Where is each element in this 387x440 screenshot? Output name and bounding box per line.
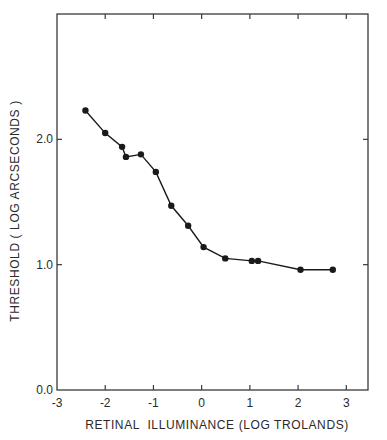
plot-frame bbox=[57, 14, 368, 390]
data-point-marker bbox=[102, 130, 108, 136]
data-point-marker bbox=[123, 154, 129, 160]
chart-container: -3-2-10123 0.01.02.0 RETINAL ILLUMINANCE… bbox=[0, 0, 387, 440]
data-point-marker bbox=[138, 151, 144, 157]
data-point-marker bbox=[185, 223, 191, 229]
y-tick-labels: 0.01.02.0 bbox=[36, 132, 53, 397]
data-point-marker bbox=[119, 144, 125, 150]
x-tick-labels: -3-2-10123 bbox=[52, 396, 350, 410]
data-series bbox=[82, 107, 336, 273]
x-tick-label: -3 bbox=[52, 396, 63, 410]
data-point-marker bbox=[249, 258, 255, 264]
y-tick-label: 1.0 bbox=[36, 258, 53, 272]
data-point-marker bbox=[255, 258, 261, 264]
data-point-marker bbox=[168, 203, 174, 209]
y-tick-label: 0.0 bbox=[36, 383, 53, 397]
y-tick-label: 2.0 bbox=[36, 132, 53, 146]
data-point-marker bbox=[153, 169, 159, 175]
x-tick-label: 3 bbox=[343, 396, 350, 410]
x-tick-label: 2 bbox=[295, 396, 302, 410]
data-point-marker bbox=[330, 266, 336, 272]
x-tick-label: -1 bbox=[148, 396, 159, 410]
x-tick-label: 1 bbox=[247, 396, 254, 410]
data-point-marker bbox=[297, 266, 303, 272]
data-point-marker bbox=[200, 244, 206, 250]
data-point-marker bbox=[82, 107, 88, 113]
x-axis-title: RETINAL ILLUMINANCE (LOG TROLANDS) bbox=[85, 418, 349, 432]
x-tick-label: 0 bbox=[198, 396, 205, 410]
series-line bbox=[85, 111, 332, 270]
data-point-marker bbox=[222, 255, 228, 261]
plot-border bbox=[57, 14, 368, 390]
threshold-vs-illuminance-plot: -3-2-10123 0.01.02.0 RETINAL ILLUMINANCE… bbox=[0, 0, 387, 440]
y-axis-title: THRESHOLD ( LOG ARCSECONDS ) bbox=[8, 100, 22, 322]
axis-ticks bbox=[57, 14, 368, 390]
x-tick-label: -2 bbox=[100, 396, 111, 410]
